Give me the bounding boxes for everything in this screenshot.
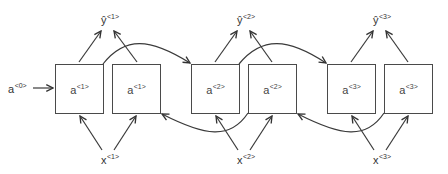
input-to-backward-arrow-1 (114, 116, 136, 150)
input-to-forward-arrow-3 (352, 116, 374, 150)
backward-cell-label-2: a<2> (263, 83, 282, 96)
input-to-backward-arrow-3 (386, 116, 408, 150)
backward-cell-2: a<2> (248, 64, 297, 114)
forward-cell-label-1: a<1> (70, 83, 89, 96)
backward-cell-1: a<1> (112, 64, 161, 114)
label-sup: <0> (15, 82, 27, 89)
output-label-2: ŷ<2> (237, 13, 255, 26)
backward-recurrent-arrow-2-1 (162, 113, 248, 132)
forward-cell-label-3: a<3> (342, 83, 361, 96)
forward-recurrent-arrow-2-3 (239, 44, 326, 64)
backward-cell-3: a<3> (384, 64, 433, 114)
initial-activation-label: a<0> (8, 82, 27, 95)
input-label-1: x<1> (101, 153, 119, 166)
forward-to-output-arrow-2 (215, 31, 237, 62)
forward-to-output-arrow-3 (351, 31, 373, 62)
backward-cell-label-1: a<1> (127, 83, 146, 96)
backward-to-output-arrow-3 (386, 31, 408, 62)
output-label-1: ŷ<1> (101, 13, 119, 26)
input-to-backward-arrow-2 (250, 116, 272, 150)
input-to-forward-arrow-2 (216, 116, 238, 150)
label-base: a (8, 83, 14, 95)
forward-recurrent-arrow-1-2 (103, 44, 190, 64)
input-label-3: x<3> (373, 153, 391, 166)
input-label-2: x<2> (237, 153, 255, 166)
forward-cell-label-2: a<2> (206, 83, 225, 96)
forward-cell-3: a<3> (327, 64, 376, 114)
backward-recurrent-arrow-3-2 (298, 113, 384, 132)
forward-cell-1: a<1> (55, 64, 104, 114)
backward-cell-label-3: a<3> (399, 83, 418, 96)
forward-to-output-arrow-1 (79, 31, 101, 62)
output-label-3: ŷ<3> (373, 13, 391, 26)
input-to-forward-arrow-1 (80, 116, 102, 150)
forward-cell-2: a<2> (191, 64, 240, 114)
